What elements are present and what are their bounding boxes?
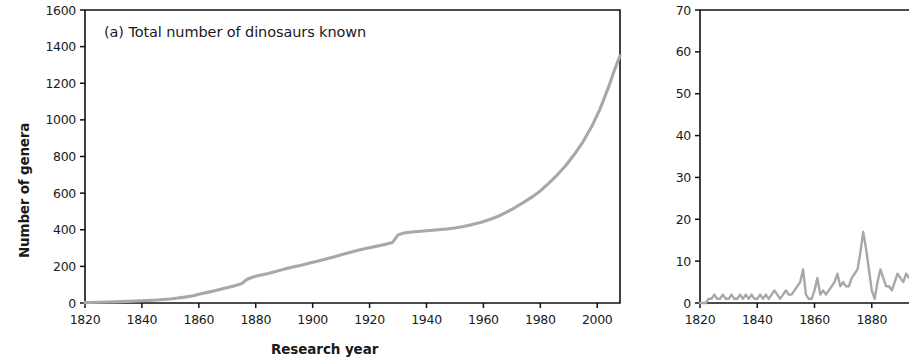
y-tick-label: 800 — [53, 149, 76, 164]
y-tick-label: 70 — [676, 3, 692, 18]
panel-b-data-line — [700, 232, 909, 303]
x-tick-label: 1820 — [70, 312, 101, 327]
panel-b-axis-frame — [700, 10, 909, 303]
y-tick-label: 30 — [676, 170, 692, 185]
y-tick-label: 0 — [68, 296, 76, 311]
y-tick-label: 1200 — [45, 76, 76, 91]
x-tick-label: 1900 — [297, 312, 328, 327]
y-tick-label: 20 — [676, 212, 692, 227]
x-tick-label: 1840 — [127, 312, 158, 327]
x-tick-label: 1880 — [240, 312, 271, 327]
x-tick-label: 1920 — [354, 312, 385, 327]
x-tick-label: 1820 — [685, 312, 716, 327]
x-tick-label: 2000 — [582, 312, 613, 327]
panel-a-x-tick-labels: 1820184018601880190019201940196019802000 — [70, 312, 613, 327]
chart-panel-a: Number of genera (a) Total number of din… — [0, 0, 650, 364]
y-tick-label: 1000 — [45, 112, 76, 127]
y-tick-label: 50 — [676, 86, 692, 101]
x-tick-label: 1940 — [411, 312, 442, 327]
panel-a-tick-marks — [80, 10, 597, 308]
panel-a-plot: 02004006008001000120014001600 1820184018… — [0, 0, 650, 364]
y-tick-label: 400 — [53, 222, 76, 237]
y-tick-label: 10 — [676, 254, 692, 269]
y-tick-label: 60 — [676, 44, 692, 59]
y-tick-label: 1600 — [45, 3, 76, 18]
y-tick-label: 200 — [53, 259, 76, 274]
dinosaur-discovery-figure: Number of genera (a) Total number of din… — [0, 0, 909, 364]
panel-a-data-line — [85, 56, 620, 303]
y-tick-label: 40 — [676, 128, 692, 143]
panel-a-y-tick-labels: 02004006008001000120014001600 — [45, 3, 76, 311]
panel-b-y-tick-labels: 010203040506070 — [676, 3, 692, 311]
panel-b-plot: 010203040506070 1820184018601880 — [650, 0, 909, 364]
x-tick-label: 1860 — [184, 312, 215, 327]
x-tick-label: 1960 — [468, 312, 499, 327]
y-tick-label: 600 — [53, 186, 76, 201]
y-tick-label: 1400 — [45, 39, 76, 54]
chart-panel-b: Number of genera (b) Rate of dinosaur di… — [650, 0, 909, 364]
panel-b-tick-marks — [695, 10, 872, 308]
x-tick-label: 1880 — [856, 312, 887, 327]
x-tick-label: 1840 — [742, 312, 773, 327]
x-tick-label: 1860 — [799, 312, 830, 327]
panel-b-x-tick-labels: 1820184018601880 — [685, 312, 888, 327]
y-tick-label: 0 — [683, 296, 691, 311]
panel-a-axis-frame — [85, 10, 620, 303]
x-tick-label: 1980 — [525, 312, 556, 327]
